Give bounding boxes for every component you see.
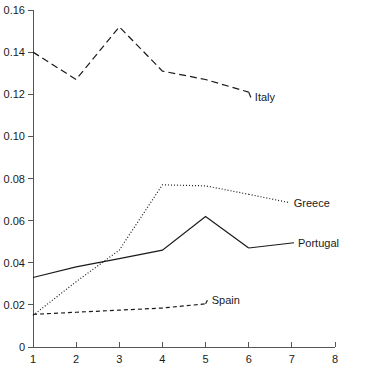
x-tick-label: 3 [116, 353, 122, 365]
x-tick-label: 7 [289, 353, 295, 365]
y-tick-label: 0.08 [4, 173, 25, 185]
series-leader-portugal [249, 243, 294, 248]
x-tick-label: 4 [159, 353, 165, 365]
y-tick-label: 0.14 [4, 46, 25, 58]
y-tick-label: 0.02 [4, 299, 25, 311]
series-line-portugal [33, 216, 249, 277]
x-tick-label: 5 [203, 353, 209, 365]
chart-plot-area: 00.020.040.060.080.100.120.140.16 123456… [0, 0, 384, 382]
line-chart: 00.020.040.060.080.100.120.140.16 123456… [0, 0, 384, 382]
x-axis-ticks: 12345678 [30, 342, 338, 365]
x-tick-label: 6 [246, 353, 252, 365]
series-leader-italy [249, 92, 251, 97]
series-leader-greece [249, 194, 290, 202]
y-tick-label: 0.12 [4, 88, 25, 100]
x-tick-label: 2 [73, 353, 79, 365]
data-series-group [33, 27, 294, 316]
series-labels-group: ItalyGreecePortugalSpain [212, 91, 339, 305]
y-tick-label: 0.10 [4, 130, 25, 142]
series-label-portugal: Portugal [298, 237, 339, 249]
series-label-spain: Spain [212, 294, 240, 306]
x-tick-label: 8 [332, 353, 338, 365]
series-line-spain [33, 304, 206, 315]
series-label-greece: Greece [294, 197, 330, 209]
y-tick-label: 0.04 [4, 257, 25, 269]
series-leader-spain [206, 300, 208, 304]
y-tick-label: 0 [19, 341, 25, 353]
y-tick-label: 0.16 [4, 4, 25, 16]
x-tick-label: 1 [30, 353, 36, 365]
y-tick-label: 0.06 [4, 215, 25, 227]
y-axis-ticks: 00.020.040.060.080.100.120.140.16 [4, 4, 33, 353]
series-label-italy: Italy [255, 91, 276, 103]
series-line-italy [33, 27, 249, 92]
